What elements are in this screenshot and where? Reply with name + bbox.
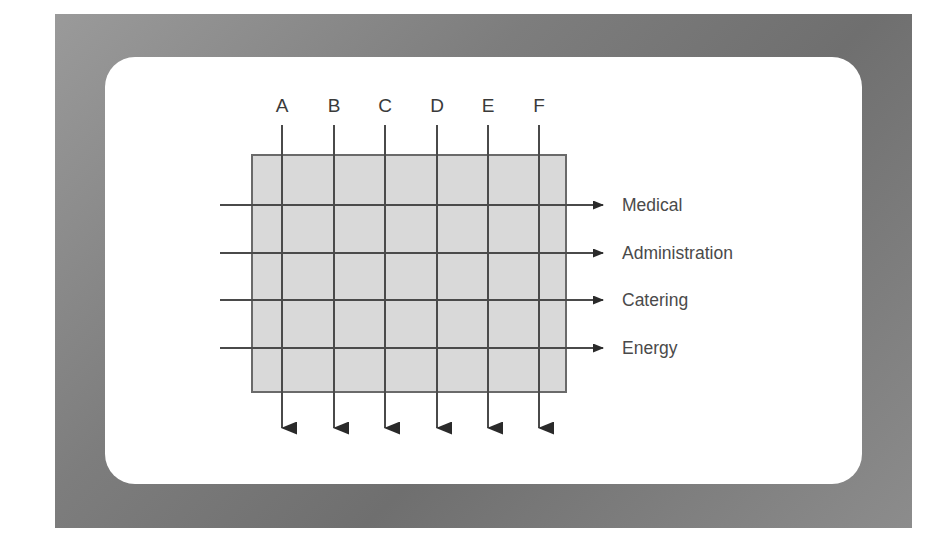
white-card bbox=[105, 57, 862, 484]
